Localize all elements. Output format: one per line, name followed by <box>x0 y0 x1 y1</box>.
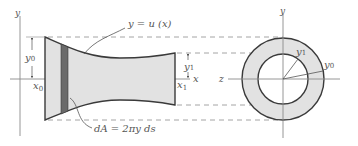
area-strip <box>61 44 68 114</box>
curve-leader-line <box>84 28 125 54</box>
x-axis-label: x <box>193 73 199 84</box>
z-axis-label: z <box>218 74 224 84</box>
curve-label: y = u (x) <box>127 18 172 29</box>
y1-label: y1 <box>183 61 194 72</box>
outer-radius-label: y0 <box>323 59 334 70</box>
y0-left-label: y0 <box>24 52 35 63</box>
x0-label: x0 <box>33 80 43 93</box>
right-y-axis-label: y <box>279 6 286 16</box>
dA-label: dA = 2πy ds <box>94 123 156 134</box>
left-y-axis-label: y <box>14 8 21 18</box>
surface-of-revolution-diagram: y y = u (x) y0 x0 y1 x1 x dA = 2πy ds y … <box>0 0 358 146</box>
x1-label: x1 <box>177 79 187 92</box>
